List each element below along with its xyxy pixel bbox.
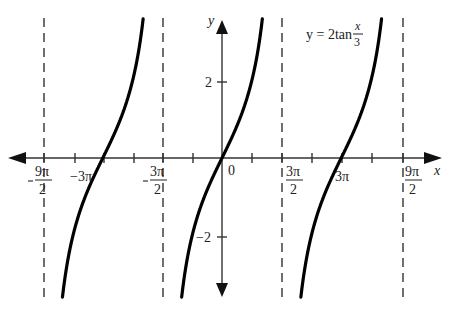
svg-text:2: 2 [409, 182, 416, 197]
svg-text:2: 2 [39, 182, 46, 197]
asymptotes [44, 18, 403, 300]
y-tick-label-2: 2 [205, 75, 212, 90]
tangent-graph: y x 2 −2 0 −3π 3π 9π 2 3π 2 3π 2 9π [0, 0, 463, 318]
x-tick-label-pos-9pi-2: 9π 2 [405, 164, 422, 197]
x-tick-label-0: 0 [228, 163, 235, 178]
svg-text:3π: 3π [150, 164, 164, 179]
x-axis-left-arrow-icon [8, 152, 26, 164]
svg-text:3: 3 [354, 35, 360, 49]
x-tick-label-neg-9pi-2: 9π 2 [28, 164, 52, 197]
x-tick-label-neg3pi: −3π [70, 169, 92, 184]
x-tick-label-pos3pi: 3π [335, 169, 349, 184]
svg-text:2: 2 [154, 182, 161, 197]
svg-text:2: 2 [290, 182, 297, 197]
y-axis-down-arrow-icon [216, 283, 228, 297]
svg-text:x: x [354, 19, 361, 33]
y-axis-up-arrow-icon [216, 20, 228, 34]
x-tick-label-pos-3pi-2: 3π 2 [286, 164, 303, 197]
x-tick-label-neg-3pi-2: 3π 2 [143, 164, 167, 197]
svg-text:y = 2tan: y = 2tan [306, 27, 352, 42]
svg-text:9π: 9π [35, 164, 49, 179]
y-axis-label: y [206, 13, 215, 28]
equation-label: y = 2tan x 3 [306, 19, 363, 49]
svg-text:9π: 9π [405, 164, 419, 179]
x-axis-label: x [433, 163, 441, 178]
svg-text:3π: 3π [286, 164, 300, 179]
y-tick-label-neg2: −2 [196, 230, 211, 245]
